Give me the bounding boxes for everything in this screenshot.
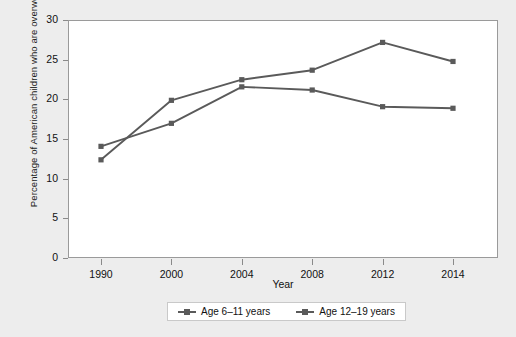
x-tick-mark [242, 259, 243, 265]
y-tick-label: 15 [18, 132, 58, 144]
y-tick-label: 20 [18, 92, 58, 104]
data-point-marker [98, 144, 103, 149]
x-axis-title: Year [68, 278, 498, 290]
y-tick-mark [63, 258, 68, 259]
data-point-marker [310, 87, 315, 92]
legend-marker-icon [178, 308, 196, 316]
legend-label: Age 6–11 years [201, 307, 270, 317]
data-point-marker [450, 106, 455, 111]
data-point-marker [169, 121, 174, 126]
data-point-marker [450, 59, 455, 64]
y-tick-label: 30 [18, 13, 58, 25]
chart-legend: Age 6–11 years Age 12–19 years [167, 302, 406, 321]
data-point-marker [239, 77, 244, 82]
data-point-marker [380, 104, 385, 109]
legend-marker-icon [296, 308, 314, 316]
y-tick-label: 25 [18, 53, 58, 65]
x-tick-mark [101, 259, 102, 265]
data-point-marker [380, 40, 385, 45]
data-point-marker [310, 68, 315, 73]
data-point-marker [169, 98, 174, 103]
legend-item-age-6-11[interactable]: Age 6–11 years [178, 307, 270, 317]
x-tick-mark [312, 259, 313, 265]
chart-figure: Percentage of American children who are … [0, 0, 516, 337]
plot-area: 199020002004200820122014 [68, 20, 498, 258]
x-tick-mark [453, 259, 454, 265]
legend-item-age-12-19[interactable]: Age 12–19 years [296, 307, 395, 317]
legend-label: Age 12–19 years [319, 307, 395, 317]
data-point-marker [98, 157, 103, 162]
x-tick-mark [171, 259, 172, 265]
y-tick-label: 10 [18, 172, 58, 184]
series-1 [98, 40, 455, 163]
data-point-marker [239, 84, 244, 89]
series-line [101, 42, 453, 159]
line-chart-canvas [69, 21, 499, 259]
y-tick-label: 5 [18, 211, 58, 223]
series-line [101, 87, 453, 147]
x-tick-mark [383, 259, 384, 265]
y-tick-label: 0 [18, 251, 58, 263]
